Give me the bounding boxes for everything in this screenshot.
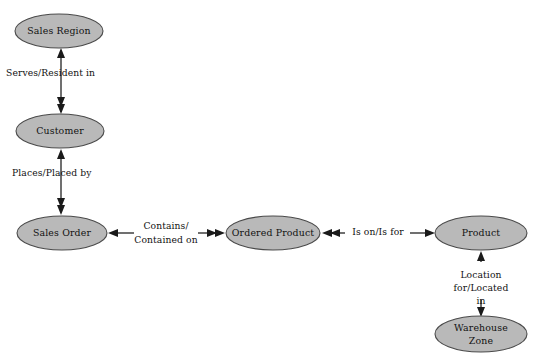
edge-label-location-line2: for/Located	[454, 282, 509, 293]
node-label-warehouse-zone-line2: Zone	[469, 335, 494, 346]
edge-label-location-line3: in	[476, 295, 485, 306]
edge-label-location-line1: Location	[460, 269, 501, 280]
diagram-canvas: Serves/Resident in Places/Placed by Cont…	[0, 0, 540, 357]
node-label-product: Product	[462, 227, 501, 238]
node-customer[interactable]: Customer	[16, 114, 104, 148]
arrow-head-up-icon	[57, 149, 65, 159]
node-product[interactable]: Product	[435, 216, 527, 250]
node-label-ordered-product: Ordered Product	[232, 227, 315, 238]
er-diagram: Serves/Resident in Places/Placed by Cont…	[0, 0, 540, 357]
arrow-head-left-icon	[108, 229, 118, 237]
edge-customer-sales-order	[57, 149, 65, 215]
arrow-head-right-icon	[425, 229, 435, 237]
node-sales-order[interactable]: Sales Order	[17, 216, 107, 250]
arrow-head-up-icon	[477, 251, 485, 261]
edge-label-is-on-is-for: Is on/Is for	[352, 226, 404, 237]
node-ordered-product[interactable]: Ordered Product	[226, 216, 320, 250]
edge-label-serves-resident-in: Serves/Resident in	[6, 67, 95, 78]
edge-label-places-placed-by: Places/Placed by	[12, 167, 92, 178]
arrow-head-up-icon	[57, 48, 65, 58]
node-warehouse-zone[interactable]: Warehouse Zone	[435, 316, 527, 352]
edge-sales-region-customer	[57, 48, 65, 114]
edge-label-contains-line1: Contains/	[143, 220, 189, 231]
node-label-customer: Customer	[36, 125, 84, 136]
edge-label-contains-line2: Contained on	[134, 234, 197, 245]
node-label-sales-region: Sales Region	[27, 25, 90, 36]
node-label-warehouse-zone-line1: Warehouse	[454, 322, 508, 333]
node-label-sales-order: Sales Order	[33, 227, 92, 238]
node-sales-region[interactable]: Sales Region	[15, 14, 103, 48]
